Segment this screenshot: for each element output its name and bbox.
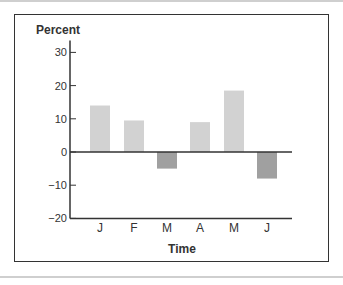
y-tick-label: −20 <box>48 212 67 224</box>
bars <box>90 91 277 179</box>
x-tick-label: A <box>196 221 204 235</box>
bar-f-1 <box>124 120 144 152</box>
x-tick-label: M <box>229 221 239 235</box>
y-tick-label: 20 <box>55 80 67 92</box>
y-axis-label: Percent <box>36 23 80 37</box>
x-axis-label: Time <box>168 242 196 256</box>
y-tick-label: −10 <box>48 179 67 191</box>
x-tick-label: J <box>264 221 270 235</box>
x-tick-label: M <box>162 221 172 235</box>
bar-chart: Percent 3020100−10−20 JFMAMJ Time <box>0 0 343 285</box>
bar-m-4 <box>224 91 244 152</box>
y-axis: 3020100−10−20 <box>48 40 76 224</box>
bar-j-0 <box>90 106 110 152</box>
x-tick-label: J <box>97 221 103 235</box>
bar-a-3 <box>190 122 210 152</box>
y-tick-label: 30 <box>55 46 67 58</box>
y-tick-label: 10 <box>55 113 67 125</box>
y-tick-label: 0 <box>61 146 67 158</box>
bar-m-2 <box>157 152 177 169</box>
bar-j-5 <box>257 152 277 179</box>
x-tick-label: F <box>130 221 137 235</box>
